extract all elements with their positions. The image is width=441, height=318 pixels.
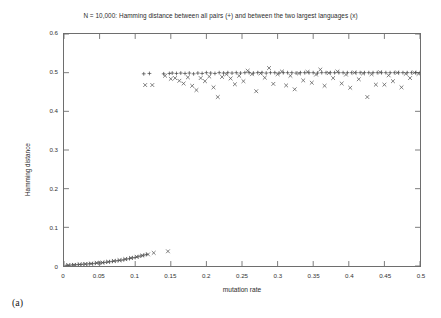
y-tick-label: 0.6 [30,29,58,36]
series-all-pairs [65,71,420,266]
x-tick-label: 0.5 [407,272,435,279]
y-tick-label: 0.2 [30,185,58,192]
x-tick-label: 0.1 [121,272,149,279]
x-tick-label: 0.25 [228,272,256,279]
chart-title: N = 10,000: Hamming distance between all… [0,11,441,20]
x-tick-label: 0.4 [335,272,363,279]
panel-caption: (a) [12,297,23,308]
y-tick-label: 0 [30,263,58,270]
y-tick-label: 0.1 [30,224,58,231]
figure-panel: N = 10,000: Hamming distance between all… [0,0,441,318]
x-tick-label: 0.35 [300,272,328,279]
y-tick-label: 0.4 [30,107,58,114]
x-tick-label: 0.15 [156,272,184,279]
x-tick-label: 0.05 [85,272,113,279]
x-tick-label: 0.45 [371,272,399,279]
y-tick-label: 0.5 [30,68,58,75]
y-axis-title: Hamming distance [24,143,31,196]
x-axis-title: mutation rate [63,286,421,293]
plot-area [63,33,421,267]
x-tick-label: 0.3 [264,272,292,279]
x-tick-label: 0 [49,272,77,279]
series-largest-languages [66,66,420,266]
x-tick-label: 0.2 [192,272,220,279]
y-tick-label: 0.3 [30,146,58,153]
scatter-canvas [64,34,420,266]
